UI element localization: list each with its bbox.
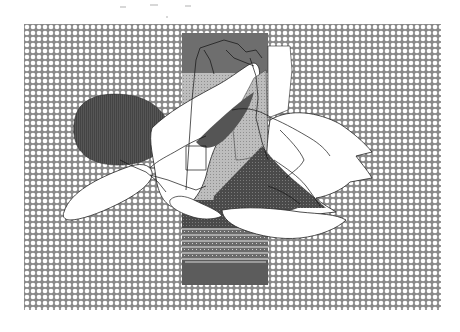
abstract-collage xyxy=(0,0,460,332)
white-upper-panel xyxy=(268,46,292,118)
faint-marks xyxy=(120,4,191,18)
